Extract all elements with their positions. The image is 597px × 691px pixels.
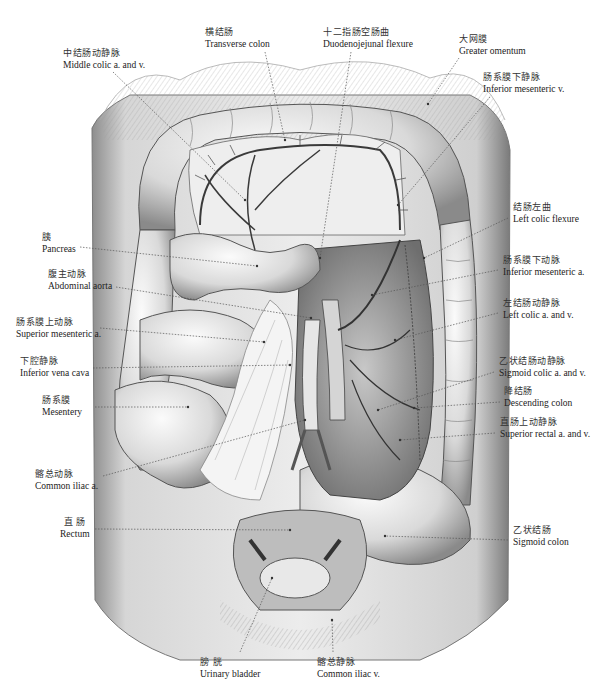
label-en: Pancreas: [42, 243, 76, 255]
leader-dot-common-iliac-a: [304, 419, 306, 421]
label-en: Urinary bladder: [200, 668, 260, 680]
label-middle-colic: 中结肠动静脉 Middle colic a. and v.: [63, 47, 145, 71]
leader-dot-inferior-mesenteric-a: [371, 294, 373, 296]
label-en: Abdominal aorta: [48, 280, 112, 292]
label-left-colic-flexure: 结肠左曲 Left colic flexure: [513, 201, 579, 225]
label-rectum: 直 肠 Rectum: [60, 516, 90, 540]
label-zh: 髂总动脉: [35, 468, 98, 480]
label-zh: 肠系膜: [42, 394, 82, 406]
label-zh: 胰: [42, 231, 76, 243]
label-en: Sigmoid colon: [513, 536, 569, 548]
label-pancreas: 胰 Pancreas: [42, 231, 76, 255]
leader-dot-pancreas: [256, 265, 258, 267]
label-inferior-mesenteric-v: 肠系膜下静脉 Inferior mesenteric v.: [483, 71, 564, 95]
label-inferior-vena-cava: 下腔静脉 Inferior vena cava: [20, 355, 89, 379]
label-common-iliac-v: 髂总静脉 Common iliac v.: [317, 656, 380, 680]
leader-dot-left-colic-av: [394, 339, 396, 341]
label-mesentery: 肠系膜 Mesentery: [42, 394, 82, 418]
leader-dot-abdominal-aorta: [310, 317, 312, 319]
mesocolon-vessels: [189, 134, 408, 250]
label-en: Middle colic a. and v.: [63, 59, 145, 71]
label-descending-colon: 降结肠 Descending colon: [504, 385, 572, 409]
leader-dot-middle-colic: [244, 199, 246, 201]
label-zh: 中结肠动静脉: [63, 47, 145, 59]
label-zh: 直肠上动静脉: [500, 416, 590, 428]
label-zh: 结肠左曲: [513, 201, 579, 213]
label-zh: 肠系膜上动脉: [16, 316, 101, 328]
leader-dot-common-iliac-v: [331, 619, 333, 621]
label-greater-omentum: 大网膜 Greater omentum: [459, 33, 526, 57]
label-en: Descending colon: [504, 397, 572, 409]
label-superior-mesenteric-a: 肠系膜上动脉 Superior mesenteric a.: [16, 316, 101, 340]
leader-dot-left-colic-flexure: [423, 257, 425, 259]
label-en: Rectum: [60, 528, 90, 540]
leader-dot-duodenojejunal-flexure: [319, 257, 321, 259]
leader-dot-sigmoid-colon: [384, 535, 386, 537]
label-en: Superior rectal a. and v.: [500, 428, 590, 440]
label-en: Common iliac v.: [317, 668, 380, 680]
label-en: Duodenojejunal flexure: [323, 38, 413, 50]
leader-dot-urinary-bladder: [271, 577, 273, 579]
leader-dot-superior-mesenteric-a: [263, 341, 265, 343]
label-zh: 降结肠: [504, 385, 572, 397]
label-en: Left colic flexure: [513, 213, 579, 225]
label-en: Common iliac a.: [35, 480, 98, 492]
label-sigmoid-colon: 乙状结肠 Sigmoid colon: [513, 524, 569, 548]
label-zh: 髂总静脉: [317, 656, 380, 668]
label-transverse-colon: 横结肠 Transverse colon: [205, 26, 270, 50]
label-abdominal-aorta: 腹主动脉 Abdominal aorta: [48, 268, 112, 292]
label-zh: 肠系膜下动脉: [503, 254, 585, 266]
leader-dot-transverse-colon: [284, 139, 286, 141]
leader-dot-inferior-vena-cava: [289, 364, 291, 366]
label-en: Inferior vena cava: [20, 367, 89, 379]
label-zh: 腹主动脉: [48, 268, 112, 280]
label-en: Transverse colon: [205, 38, 270, 50]
label-common-iliac-a: 髂总动脉 Common iliac a.: [35, 468, 98, 492]
label-duodenojejunal-flexure: 十二指肠空肠曲 Duodenojejunal flexure: [323, 26, 413, 50]
label-en: Sigmoid colic a. and v.: [499, 367, 586, 379]
label-inferior-mesenteric-a: 肠系膜下动脉 Inferior mesenteric a.: [503, 254, 585, 278]
label-zh: 大网膜: [459, 33, 526, 45]
label-zh: 膀 胱: [200, 656, 260, 668]
label-en: Inferior mesenteric v.: [483, 83, 564, 95]
leader-dot-sigmoid-colic-av: [377, 409, 379, 411]
label-zh: 肠系膜下静脉: [483, 71, 564, 83]
anatomical-illustration: [0, 0, 597, 691]
label-zh: 乙状结肠动静脉: [499, 355, 586, 367]
label-zh: 横结肠: [205, 26, 270, 38]
label-zh: 下腔静脉: [20, 355, 89, 367]
label-zh: 乙状结肠: [513, 524, 569, 536]
label-left-colic-av: 左结肠动静脉 Left colic a. and v.: [503, 297, 574, 321]
label-urinary-bladder: 膀 胱 Urinary bladder: [200, 656, 260, 680]
label-en: Mesentery: [42, 406, 82, 418]
leader-dot-descending-colon: [413, 407, 415, 409]
label-en: Greater omentum: [459, 45, 526, 57]
label-en: Inferior mesenteric a.: [503, 266, 585, 278]
label-zh: 左结肠动静脉: [503, 297, 574, 309]
label-sigmoid-colic-av: 乙状结肠动静脉 Sigmoid colic a. and v.: [499, 355, 586, 379]
leader-dot-rectum: [289, 529, 291, 531]
leader-dot-superior-rectal-av: [399, 439, 401, 441]
label-en: Left colic a. and v.: [503, 309, 574, 321]
label-zh: 直 肠: [60, 516, 90, 528]
label-en: Superior mesenteric a.: [16, 328, 101, 340]
leader-dot-greater-omentum: [427, 103, 429, 105]
leader-dot-inferior-mesenteric-v: [397, 204, 399, 206]
label-superior-rectal-av: 直肠上动静脉 Superior rectal a. and v.: [500, 416, 590, 440]
label-zh: 十二指肠空肠曲: [323, 26, 413, 38]
leader-dot-mesentery: [187, 406, 189, 408]
